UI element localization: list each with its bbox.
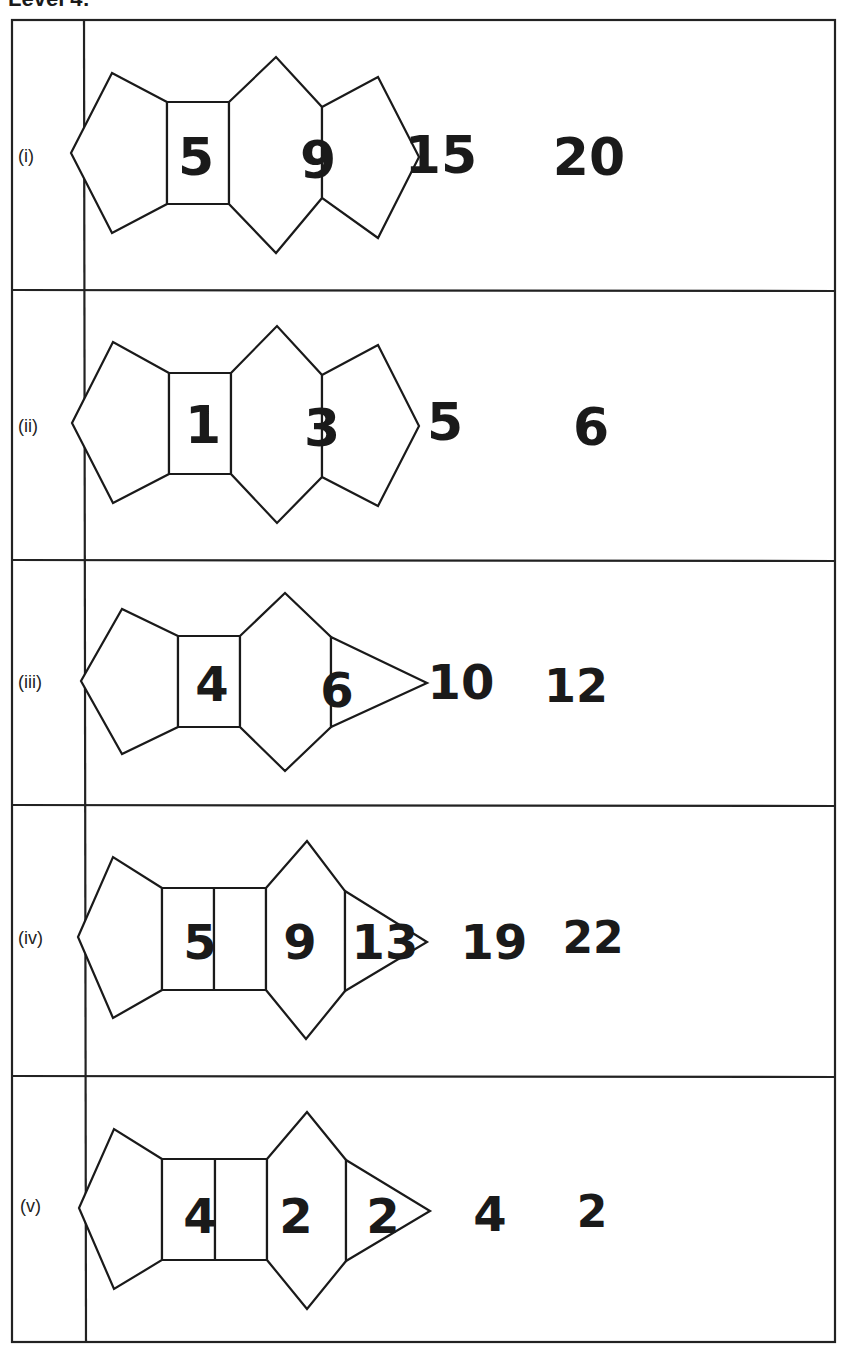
number: 13	[352, 914, 419, 970]
number: 5	[183, 914, 216, 970]
table-row: (iii) 4 6 10 12	[18, 593, 608, 771]
number: 12	[544, 659, 608, 713]
shape-net: 1 3 5 6	[72, 326, 609, 523]
shape-net: 5 9 15 20	[71, 57, 625, 253]
row-label: (ii)	[18, 416, 38, 436]
square	[214, 888, 266, 990]
worksheet-table: (i) 5 9 15 20 (ii) 1 3 5 6 (iii)	[0, 0, 843, 1352]
shape-net: 4 6 10 12	[81, 593, 608, 771]
number: 2	[279, 1188, 312, 1244]
number: 2	[366, 1188, 399, 1244]
shape-net: 5 9 13 19 22	[78, 841, 624, 1039]
table-row: (ii) 1 3 5 6	[18, 326, 609, 523]
pentagon-left	[72, 342, 169, 503]
number: 5	[427, 392, 463, 452]
table-row: (v) 4 2 2 4 2	[20, 1112, 607, 1309]
shape-net: 4 2 2 4 2	[79, 1112, 607, 1309]
pentagon-left	[78, 857, 162, 1018]
number: 4	[473, 1186, 506, 1242]
number: 20	[553, 127, 625, 187]
number: 9	[283, 914, 316, 970]
number: 6	[320, 662, 353, 718]
table-row: (i) 5 9 15 20	[18, 57, 625, 253]
number: 6	[573, 397, 609, 457]
pentagon-left	[71, 73, 167, 233]
square	[215, 1159, 267, 1260]
row-label: (iv)	[18, 928, 43, 948]
table-row: (iv) 5 9 13 19 22	[18, 841, 624, 1039]
number: 4	[195, 656, 228, 712]
number: 10	[428, 654, 495, 710]
number: 9	[300, 130, 336, 190]
number: 15	[405, 125, 477, 185]
number: 19	[461, 914, 528, 970]
pentagon-left	[81, 609, 178, 754]
number: 3	[304, 398, 340, 458]
number: 22	[562, 912, 623, 963]
number: 1	[185, 395, 221, 455]
row-label: (v)	[20, 1196, 41, 1216]
number: 4	[183, 1188, 216, 1244]
row-label: (i)	[18, 146, 34, 166]
number: 5	[178, 127, 214, 187]
hexagon	[240, 593, 331, 771]
number: 2	[577, 1186, 608, 1237]
row-label: (iii)	[18, 672, 42, 692]
pentagon-left	[79, 1129, 162, 1289]
